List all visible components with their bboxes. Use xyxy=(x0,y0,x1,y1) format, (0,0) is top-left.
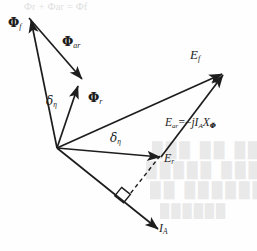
label-i-a: IA xyxy=(159,222,168,235)
label-phi-r: Φr xyxy=(88,91,102,106)
e-symbol: E xyxy=(190,47,198,62)
e-f-subscript: f xyxy=(198,54,200,63)
delta-subscript: η xyxy=(117,137,121,146)
label-e-r: Er xyxy=(164,152,174,165)
vector-e-f xyxy=(57,74,222,148)
label-phi-f: Φf xyxy=(8,16,22,31)
label-delta-eta-lower: δη xyxy=(110,132,121,145)
phi-symbol: Φ xyxy=(62,34,73,49)
cropped-top-equation: Φr + Φar = Φf xyxy=(24,1,87,12)
delta-subscript: η xyxy=(53,100,57,109)
phi-f-subscript: f xyxy=(19,22,21,31)
label-phi-ar: Φar xyxy=(62,35,80,50)
vector-e-r xyxy=(57,148,160,157)
label-e-ar-equation: Ear=−jIAXΦ xyxy=(165,117,216,130)
phi-symbol: Φ xyxy=(8,15,19,30)
phi-ar-subscript: ar xyxy=(73,41,80,50)
e-ar-symbol: E xyxy=(165,116,172,128)
vector-i-a xyxy=(57,148,158,229)
phi-r-subscript: r xyxy=(99,97,102,106)
reactance-symbol: X xyxy=(203,116,210,128)
phasor-diagram-figure: ███ ██ ████ █████ ████ ██ ██ ██████ ██ █… xyxy=(0,0,257,251)
e-r-subscript: r xyxy=(171,157,174,166)
perpendicular-dropline xyxy=(130,156,160,194)
label-delta-eta-upper: δη xyxy=(46,95,57,108)
label-e-f: Ef xyxy=(190,48,200,63)
vector-phi-r xyxy=(57,86,78,148)
i-a-subscript: A xyxy=(163,227,168,236)
phasor-vector-canvas xyxy=(0,0,257,251)
reactance-subscript: Φ xyxy=(210,121,216,130)
vector-phi-f xyxy=(31,20,57,148)
phi-symbol: Φ xyxy=(88,90,99,105)
